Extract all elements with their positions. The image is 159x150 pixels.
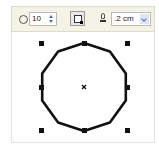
selection-handle-top-left[interactable]	[39, 41, 44, 46]
selection-handle-top-center[interactable]	[82, 41, 87, 46]
polygon-shape[interactable]	[0, 0, 159, 150]
center-x-icon[interactable]	[82, 85, 86, 89]
selection-handle-bottom-right[interactable]	[125, 128, 130, 133]
selection-handle-bottom-left[interactable]	[39, 128, 44, 133]
selection-handle-top-right[interactable]	[125, 41, 130, 46]
selection-handle-middle-left[interactable]	[39, 85, 44, 90]
selection-handle-bottom-center[interactable]	[82, 128, 87, 133]
selection-handle-middle-right[interactable]	[125, 85, 130, 90]
